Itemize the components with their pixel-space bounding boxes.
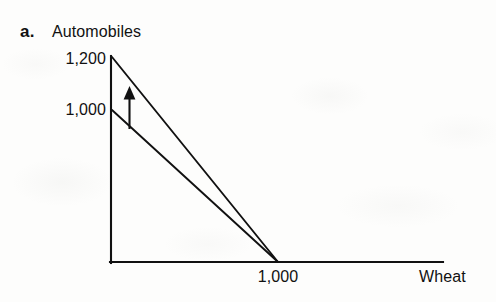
y-axis-title: Automobiles: [52, 24, 141, 40]
ppf-plot-area: [0, 0, 496, 302]
ppf-line-shifted: [112, 57, 278, 262]
y-tick-label-1000: 1,000: [36, 102, 106, 118]
ppf-line-original: [112, 110, 278, 262]
x-axis-title: Wheat: [419, 269, 466, 285]
x-tick-label-1000: 1,000: [243, 269, 313, 285]
panel-letter: a.: [20, 23, 35, 40]
y-tick-label-1200: 1,200: [36, 51, 106, 67]
ppf-figure: a. Automobiles 1,200 1,000 1,000 Wheat: [0, 0, 496, 302]
